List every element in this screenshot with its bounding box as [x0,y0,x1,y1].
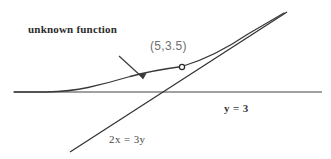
horizontal-line-label: y = 3 [224,103,249,114]
unknown-function-label: unknown function [28,24,117,35]
point-marker-icon [179,64,184,69]
point-coordinate-label: (5,3.5) [150,40,187,52]
diagonal-line-label: 2x = 3y [109,134,146,145]
function-diagram: unknown function (5,3.5) y = 3 2x = 3y [0,0,331,159]
callout-arrow-head-icon [138,73,146,79]
